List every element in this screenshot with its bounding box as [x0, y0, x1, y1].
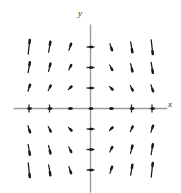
vector-arrow: [69, 167, 71, 173]
arrow-head: [50, 42, 51, 45]
arrow-head: [152, 144, 153, 147]
arrow-head: [111, 88, 112, 89]
vector-arrow: [110, 65, 112, 70]
arrow-head: [152, 89, 153, 91]
vector-arrow: [69, 147, 71, 152]
vector-arrow: [28, 144, 30, 154]
vector-arrow: [131, 165, 133, 175]
arrow-head: [111, 167, 112, 169]
vector-arrow: [131, 42, 133, 52]
arrow-head: [29, 130, 30, 132]
vector-arrow: [151, 85, 153, 91]
vector-arrow: [130, 127, 132, 132]
direction-field-canvas: [0, 0, 181, 193]
vector-arrow: [69, 44, 71, 50]
arrow-head: [29, 62, 30, 65]
arrow-head: [70, 129, 71, 130]
vector-arrow: [110, 44, 112, 50]
arrow-head: [152, 126, 153, 128]
vector-arrow: [109, 127, 112, 130]
arrow-head: [111, 68, 112, 70]
arrow-head: [50, 130, 51, 132]
vector-arrow: [48, 127, 50, 132]
vector-arrow: [131, 146, 133, 154]
vector-arrow: [151, 62, 153, 72]
vector-arrow: [28, 62, 30, 72]
arrow-head: [132, 127, 133, 129]
arrow-head: [132, 165, 133, 168]
arrow-head: [50, 86, 51, 88]
arrow-head: [111, 127, 112, 128]
arrow-head: [132, 89, 133, 91]
arrow-head: [29, 152, 30, 155]
y-axis-label: y: [78, 9, 82, 18]
vector-arrow: [131, 64, 133, 72]
vector-arrow: [110, 147, 112, 152]
vector-arrow: [68, 86, 71, 89]
vector-arrow: [151, 126, 153, 132]
vector-arrow: [28, 163, 30, 177]
vector-arrow: [109, 86, 112, 89]
vector-arrow: [49, 165, 51, 175]
vector-arrow: [151, 144, 153, 154]
arrow-head: [132, 69, 133, 72]
arrow-head: [70, 44, 71, 46]
vector-arrow: [68, 127, 71, 130]
vector-arrow: [151, 163, 153, 177]
arrow-head: [132, 49, 133, 52]
arrow-head: [70, 65, 71, 67]
vector-arrow: [49, 146, 51, 154]
vector-arrow: [151, 40, 153, 54]
vector-arrow: [49, 42, 51, 52]
vector-arrow: [130, 86, 132, 91]
arrow-head: [70, 86, 71, 87]
arrow-head: [29, 85, 30, 87]
vector-arrow: [28, 85, 30, 91]
arrow-head: [152, 70, 153, 73]
arrow-head: [132, 146, 133, 149]
arrow-head: [50, 64, 51, 67]
arrow-head: [111, 147, 112, 149]
arrow-head: [50, 151, 51, 154]
vector-arrow: [28, 126, 30, 132]
vector-arrow: [110, 167, 112, 173]
arrow-head: [70, 150, 71, 152]
arrow-head: [111, 48, 112, 50]
x-axis-label: x: [168, 100, 172, 109]
arrow-head: [70, 171, 71, 173]
arrow-head: [50, 172, 51, 175]
direction-field-figure: x y: [0, 0, 181, 193]
vector-arrow: [48, 86, 50, 91]
vector-arrow: [69, 65, 71, 70]
vector-arrow: [28, 40, 30, 54]
vector-arrow: [49, 64, 51, 72]
